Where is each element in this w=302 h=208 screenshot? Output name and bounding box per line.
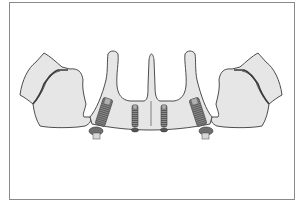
abutment-left-tilted	[89, 127, 103, 139]
right-bone-segment	[211, 53, 282, 128]
abutment-right-tilted	[199, 127, 213, 139]
dental-implant-illustration	[0, 0, 302, 208]
left-bone-segment	[20, 53, 91, 128]
palatal-arch	[90, 51, 212, 130]
